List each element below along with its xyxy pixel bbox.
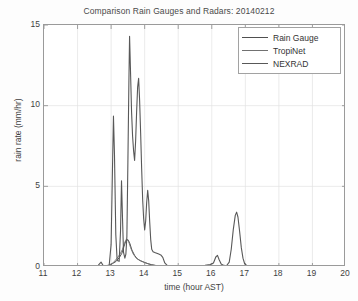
legend-item[interactable]: TropiNet [242,44,336,57]
x-tick-label: 20 [333,268,357,278]
legend-line-swatch [242,63,268,64]
chart-legend: Rain GaugeTropiNetNEXRAD [238,27,341,74]
legend-label: NEXRAD [273,59,308,69]
series-line-rain-gauge [74,240,345,266]
x-tick-label: 19 [299,268,323,278]
x-tick-label: 18 [266,268,290,278]
y-tick-label: 5 [4,181,40,190]
x-tick-label: 14 [132,268,156,278]
x-tick-label: 13 [98,268,122,278]
x-tick-label: 17 [232,268,256,278]
legend-line-swatch [242,50,268,51]
y-tick-label: 15 [4,20,40,29]
legend-item[interactable]: NEXRAD [242,57,336,70]
y-tick-label: 10 [4,100,40,109]
legend-line-swatch [242,37,268,38]
x-tick-label: 16 [199,268,223,278]
x-axis-label: time (hour AST) [43,282,345,292]
chart-title: Comparison Rain Gauges and Radars: 20140… [0,6,358,16]
chart-figure: Comparison Rain Gauges and Radars: 20140… [0,0,358,301]
y-axis-ticks: 051015 [0,0,40,301]
legend-label: TropiNet [273,46,305,56]
legend-item[interactable]: Rain Gauge [242,31,336,44]
legend-label: Rain Gauge [273,33,318,43]
x-tick-label: 15 [165,268,189,278]
x-axis-ticks: 11121314151617181920 [0,268,358,282]
x-tick-label: 12 [65,268,89,278]
x-tick-label: 11 [31,268,55,278]
